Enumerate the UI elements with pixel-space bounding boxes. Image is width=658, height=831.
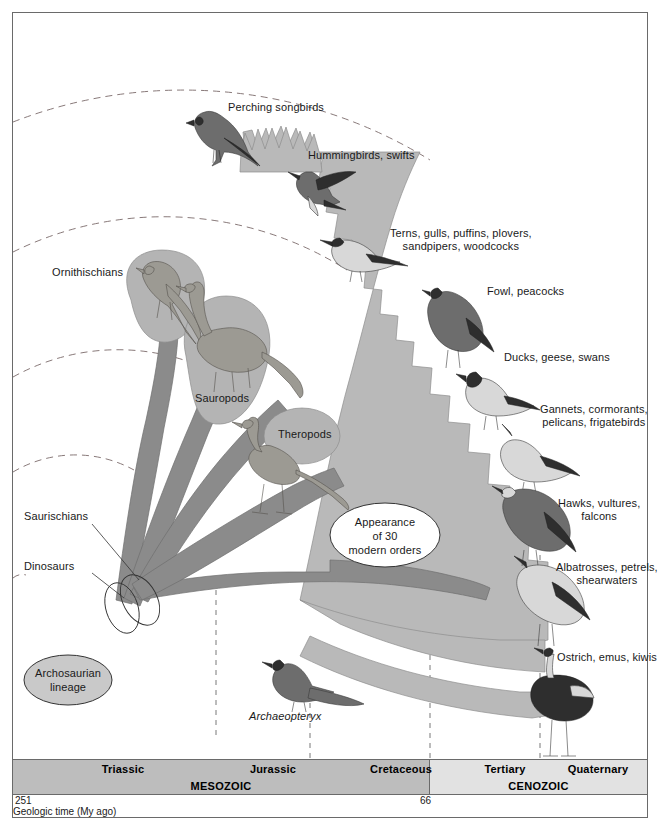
- geologic-timebar: MESOZOIC CENOZOIC Triassic Jurassic Cret…: [13, 759, 647, 795]
- era-mesozoic-label: MESOZOIC: [13, 780, 429, 792]
- period-jurassic: Jurassic: [198, 763, 348, 775]
- label-saurischians: Saurischians: [24, 510, 88, 523]
- label-waterfowl: Ducks, geese, swans: [504, 351, 610, 364]
- period-quaternary: Quaternary: [543, 763, 653, 775]
- label-theropods: Theropods: [278, 428, 332, 441]
- period-triassic: Triassic: [43, 763, 203, 775]
- label-dinosaurs: Dinosaurs: [24, 560, 74, 573]
- label-raptors: Hawks, vultures, falcons: [558, 497, 640, 523]
- label-ornithischians: Ornithischians: [52, 266, 123, 279]
- era-cenozoic-label: CENOZOIC: [430, 780, 647, 792]
- axis-caption: Geologic time (My ago): [13, 806, 116, 817]
- time-axis-row: 251 66 Geologic time (My ago): [13, 795, 647, 818]
- axis-tick-251: 251: [15, 795, 32, 806]
- evolution-of-birds-figure: Perching songbirds Hummingbirds, swifts …: [0, 0, 658, 831]
- modern-orders-callout-label: Appearance of 30 modern orders: [340, 515, 430, 557]
- label-ratites: Ostrich, emus, kiwis: [557, 651, 657, 664]
- axis-tick-66: 66: [420, 795, 431, 806]
- label-tubenoses: Albatrosses, petrels, shearwaters: [556, 561, 658, 587]
- archosaurian-lineage-label: Archosaurian lineage: [28, 666, 108, 694]
- label-fowl-peacocks: Fowl, peacocks: [487, 285, 564, 298]
- label-pelecaniformes: Gannets, cormorants, pelicans, frigatebi…: [540, 403, 648, 429]
- label-archaeopteryx: Archaeopteryx: [249, 710, 321, 723]
- label-hummingbirds-swifts: Hummingbirds, swifts: [308, 149, 415, 162]
- label-sauropods: Sauropods: [195, 392, 249, 405]
- label-shorebirds: Terns, gulls, puffins, plovers, sandpipe…: [390, 227, 532, 253]
- label-perching-songbirds: Perching songbirds: [228, 101, 324, 114]
